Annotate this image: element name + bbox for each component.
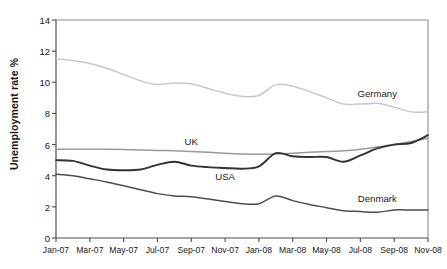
x-tick-label: Sep-08 [380,245,408,255]
x-tick-label: Jan-08 [246,245,272,255]
series-label-uk: UK [185,136,198,147]
series-label-germany: Germany [358,88,397,99]
x-tick-label: Jul-07 [146,245,169,255]
series-label-usa: USA [215,170,235,181]
x-tick-label: May-08 [312,245,341,255]
unemployment-line-chart: Unemployment rate % 02468101214 Jan-07Ma… [0,0,447,269]
x-tick-label: Sep-07 [177,245,205,255]
x-tick-label: Mar-07 [76,245,103,255]
x-tick-label: Jan-07 [43,245,69,255]
x-tick-label: Jul-08 [349,245,372,255]
x-tick-label: Mar-08 [279,245,306,255]
series-line-uk [56,138,428,154]
x-tick-label: May-07 [109,245,138,255]
x-tick-label: Nov-07 [211,245,239,255]
plot-area [0,0,447,269]
series-line-usa [56,135,428,170]
series-line-germany [56,59,428,112]
series-label-denmark: Denmark [358,192,397,203]
x-tick-label: Nov-08 [414,245,442,255]
